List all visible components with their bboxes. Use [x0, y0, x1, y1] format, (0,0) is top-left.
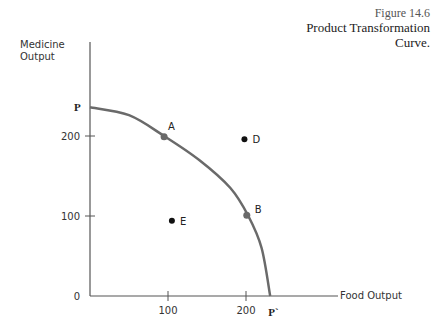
- point-e: [169, 218, 175, 224]
- curve-start-label: P: [74, 101, 81, 113]
- x-tick-label: 200: [236, 305, 255, 316]
- x-axis-label: Food Output: [340, 290, 402, 301]
- point-d: [241, 136, 247, 142]
- y-axis-label-line2: Output: [20, 51, 55, 62]
- point-label-a: A: [168, 121, 175, 132]
- point-a: [161, 133, 168, 140]
- x-tick-label: 100: [158, 305, 177, 316]
- y-tick-label: 100: [61, 211, 80, 222]
- product-transformation-chart: Medicine Output Food Output 100200010020…: [0, 0, 438, 332]
- curve-end-label: P`: [268, 306, 278, 318]
- point-label-b: B: [255, 204, 262, 215]
- y-tick-label: 0: [74, 291, 80, 302]
- point-label-d: D: [252, 134, 260, 145]
- y-axis-label-line1: Medicine: [20, 39, 65, 50]
- point-b: [243, 212, 250, 219]
- ppf-curve: [90, 107, 270, 296]
- point-label-e: E: [180, 216, 186, 227]
- y-tick-label: 200: [61, 131, 80, 142]
